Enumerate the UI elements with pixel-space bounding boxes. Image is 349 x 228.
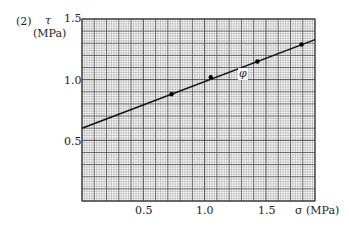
grid-minor <box>82 19 315 201</box>
x-tick-0-5: 0.5 <box>135 205 153 217</box>
y-tick-1-0: 1.0 <box>64 75 82 87</box>
y-axis-unit: (MPa) <box>33 28 66 40</box>
panel-label: (2) <box>16 16 32 28</box>
y-axis-symbol: τ <box>45 15 51 27</box>
angle-label: φ <box>238 68 248 80</box>
x-tick-1-5: 1.5 <box>258 205 276 217</box>
grid-major <box>82 19 315 201</box>
data-point <box>299 42 303 46</box>
y-tick-0-5: 0.5 <box>64 136 82 148</box>
y-tick-1-5: 1.5 <box>64 13 82 25</box>
plot-frame <box>82 19 315 201</box>
x-tick-1-0: 1.0 <box>196 205 214 217</box>
data-point <box>209 75 213 79</box>
data-point <box>169 92 173 96</box>
x-axis-label: σ (MPa) <box>295 205 339 217</box>
data-point <box>255 59 259 63</box>
